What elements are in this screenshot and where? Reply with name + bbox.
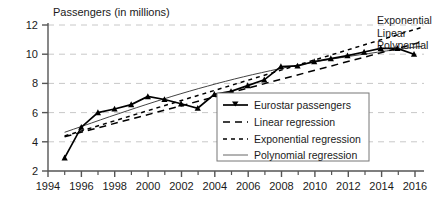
chart-svg: .gl{stroke:#c8c8c8;stroke-width:1;stroke… — [0, 0, 436, 201]
x-tick-label-2010: 2010 — [303, 180, 327, 192]
legend-label-exponential-regression: Exponential regression — [254, 133, 361, 145]
x-tick-label-2002: 2002 — [169, 180, 193, 192]
x-tick-label-2012: 2012 — [336, 180, 360, 192]
annotation-exponential: Exponential — [377, 14, 432, 26]
x-tick-label-2004: 2004 — [203, 180, 227, 192]
x-tick-label-2016: 2016 — [403, 180, 427, 192]
x-tick-label-2006: 2006 — [236, 180, 260, 192]
y-axis-title: Passengers (in millions) — [53, 6, 170, 18]
y-tick-label-4: 4 — [32, 136, 38, 148]
x-tick-label-1998: 1998 — [102, 180, 126, 192]
x-tick-label-1996: 1996 — [69, 180, 93, 192]
x-tick-label-1994: 1994 — [36, 180, 60, 192]
legend-label-eurostar-passengers: Eurostar passengers — [254, 99, 351, 111]
legend-label-polynomial-regression: Polynomial regression — [254, 149, 357, 161]
x-tick-label-2008: 2008 — [269, 180, 293, 192]
eurostar-passengers-chart: .gl{stroke:#c8c8c8;stroke-width:1;stroke… — [0, 0, 436, 201]
y-tick-label-10: 10 — [26, 48, 38, 60]
annotation-polynomial: Polynomial — [377, 39, 428, 51]
legend: Eurostar passengers Linear regression Ex… — [217, 93, 369, 161]
x-tick-label-2014: 2014 — [369, 180, 393, 192]
x-tick-label-2000: 2000 — [136, 180, 160, 192]
y-tick-label-2: 2 — [32, 165, 38, 177]
legend-label-linear-regression: Linear regression — [254, 116, 335, 128]
y-tick-label-6: 6 — [32, 107, 38, 119]
y-tick-label-12: 12 — [26, 19, 38, 31]
y-tick-label-8: 8 — [32, 77, 38, 89]
annotation-linear: Linear — [377, 27, 407, 39]
